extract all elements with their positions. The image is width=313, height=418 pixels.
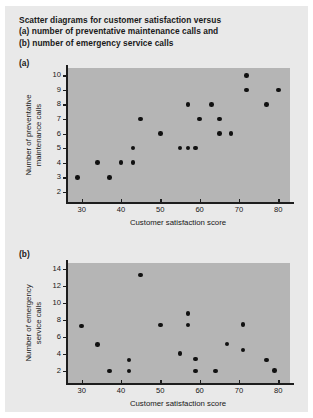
scatter-point [272,368,277,373]
y-axis-tick [63,303,68,304]
x-axis-tick-label: 70 [225,386,253,395]
scatter-point [138,273,143,278]
plot-area-background [66,263,290,383]
scatter-point [264,358,269,363]
x-axis-tick [121,380,122,385]
x-axis-tick [82,380,83,385]
y-axis-label: Number of emergencyservice calls [24,263,43,383]
scatter-point [178,351,183,356]
y-axis-tick [63,371,68,372]
scatter-chart-b: 3040506070802468101214Customer satisfact… [5,6,308,412]
scatter-point [186,311,191,316]
scatter-point [241,348,246,353]
scatter-point [213,369,218,374]
scatter-point [158,323,163,328]
x-axis-tick-label: 30 [68,386,96,395]
y-axis-tick [63,320,68,321]
x-axis-tick [160,380,161,385]
scatter-point [241,322,246,327]
x-axis-tick [239,380,240,385]
figure-panel: Scatter diagrams for customer satisfacti… [5,6,308,412]
y-axis-tick [63,286,68,287]
x-axis-tick-label: 40 [107,386,135,395]
x-axis-label: Customer satisfaction score [66,399,290,408]
x-axis-tick-label: 60 [186,386,214,395]
x-axis-tick-label: 50 [146,386,174,395]
y-axis-tick [63,354,68,355]
y-axis-line [66,260,68,384]
x-axis-tick-label: 80 [264,386,292,395]
x-axis-line [66,383,294,385]
x-axis-tick [200,380,201,385]
scatter-point [95,342,100,347]
scatter-point [107,369,112,374]
y-axis-tick [63,337,68,338]
y-axis-tick [63,269,68,270]
x-axis-tick [278,380,279,385]
